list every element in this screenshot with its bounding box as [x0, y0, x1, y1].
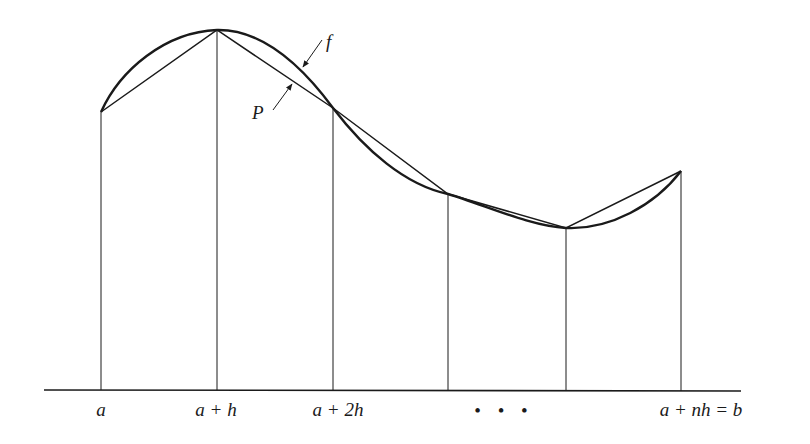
tick-label-a-plus-h: a + h [195, 399, 236, 420]
polygon-label-p: P [251, 102, 264, 123]
curve-label-f: f [326, 31, 334, 52]
tick-label-a: a [96, 399, 106, 420]
tick-label-b: a + nh = b [660, 399, 743, 420]
function-curve-f [101, 30, 681, 228]
f-pointer-arrow-icon [303, 40, 322, 67]
ordinate-lines [101, 30, 681, 391]
polygon-p [101, 30, 681, 228]
tick-label-ellipsis: • • • [474, 400, 533, 421]
polygonal-approximation-diagram: f P a a + h a + 2h • • • a + nh = b [0, 0, 810, 444]
x-axis [44, 390, 741, 391]
p-pointer-arrow-icon [273, 84, 292, 110]
tick-label-a-plus-2h: a + 2h [313, 399, 364, 420]
